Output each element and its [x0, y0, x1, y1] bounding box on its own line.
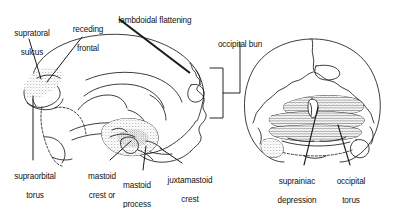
label-mastoid-process-line1: mastoid — [123, 181, 151, 190]
label-mastoid-crest-line1: mastoid — [85, 172, 120, 181]
lambdoidal-suture-zigzag — [190, 63, 201, 85]
label-receding-frontal-line1: receding — [73, 25, 104, 34]
label-juxtamastoid-crest: juxtamastoid crest — [168, 167, 213, 208]
label-supraorbital-torus-line2: torus — [14, 191, 56, 200]
label-supratoral-sulcus-line1: supratoral — [14, 29, 49, 38]
label-juxtamastoid-crest-line1: juxtamastoid — [168, 176, 213, 185]
label-occipital-bun: occipital bun — [218, 31, 262, 59]
label-lambdoidal-flattening: lambdoidal flattening — [118, 7, 191, 35]
posterior-view-group — [244, 39, 380, 165]
label-occipital-bun-line1: occipital bun — [218, 40, 262, 49]
label-receding-frontal-line2: frontal — [73, 44, 104, 53]
sphenoid-greater-wing — [78, 95, 127, 110]
superior-nuchal-line — [282, 141, 350, 146]
sagittal-suture — [312, 39, 314, 71]
occipital-bun-contour — [191, 70, 206, 151]
label-mastoid-process: mastoid process — [123, 172, 151, 208]
face-lower-outline — [52, 157, 72, 160]
occipital-bun-bracket — [210, 68, 223, 118]
foramen-magnum-hint — [304, 156, 326, 158]
label-occipital-torus: occipital torus — [337, 168, 366, 208]
anatomical-figure: supratoral sulcus receding frontal lambd… — [0, 0, 393, 208]
label-supratoral-sulcus-line2: sulcus — [14, 48, 49, 57]
label-supratoral-sulcus: supratoral sulcus — [14, 20, 49, 67]
label-suprainiac-depression-line2: depression — [277, 196, 316, 205]
lateral-view-group — [20, 19, 240, 170]
label-supraorbital-torus: supraorbital torus — [14, 163, 56, 208]
label-lambdoidal-flattening-line1: lambdoidal flattening — [118, 16, 191, 25]
leader-juxtamastoid-crest — [160, 148, 182, 163]
label-supraorbital-torus-line1: supraorbital — [14, 172, 56, 181]
maxilla-outline — [44, 137, 65, 163]
inca-bone-outline — [315, 65, 340, 80]
occipital-bun-bulge — [188, 84, 204, 102]
label-receding-frontal: receding frontal — [73, 16, 104, 63]
nuchal-plane-dashed — [272, 149, 352, 156]
label-occipital-torus-line2: torus — [337, 196, 366, 205]
label-mastoid-process-line2: process — [123, 200, 151, 208]
label-suprainiac-depression: suprainiac depression — [277, 168, 316, 208]
label-occipital-torus-line1: occipital — [337, 177, 366, 186]
label-mastoid-crest-line2: crest or — [85, 191, 120, 200]
face-outline-dashed — [41, 107, 62, 166]
label-suprainiac-depression-line1: suprainiac — [277, 177, 316, 186]
temporal-left-edge — [258, 128, 261, 144]
label-mastoid-crest-or-tuberosity: mastoid crest or tuberosity — [85, 163, 120, 208]
label-juxtamastoid-crest-line2: crest — [168, 195, 213, 204]
zygomatic-dashed — [55, 107, 86, 134]
